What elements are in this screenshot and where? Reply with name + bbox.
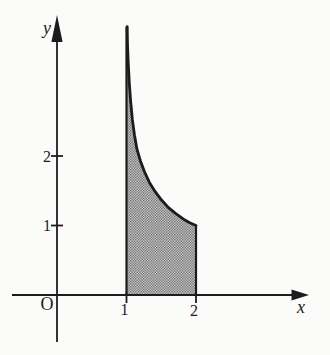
figure-canvas: y x O 1 2 1 2 [0,0,330,355]
y-tick-label-2: 2 [43,148,51,165]
x-tick-label-1: 1 [121,301,129,318]
x-axis-label: x [296,297,305,317]
y-tick-label-1: 1 [43,217,51,234]
y-axis-arrowhead-icon [51,15,62,42]
y-axis-label: y [41,18,51,38]
x-tick-label-2: 2 [190,302,198,319]
origin-label: O [41,294,54,314]
shaded-region [127,27,197,295]
